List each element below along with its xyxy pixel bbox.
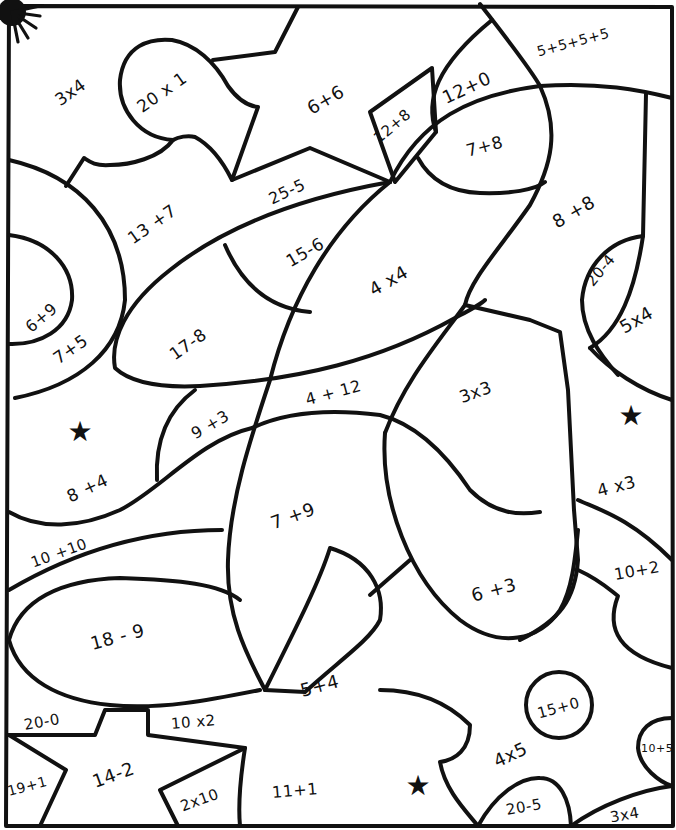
star-icon: ★ [68, 418, 93, 446]
region-label[interactable]: 10+5 [641, 743, 673, 754]
region-label[interactable]: 3x4 [608, 805, 640, 825]
sun-corner-icon [0, 0, 40, 42]
star-icon: ★ [619, 402, 644, 430]
star-icon: ★ [406, 772, 431, 800]
region-label[interactable]: 11+1 [271, 781, 318, 801]
region-label[interactable]: 10 x2 [170, 713, 216, 732]
worksheet: 3x420 x 16+612+05+5+5+512+87+825-513 +71… [0, 0, 676, 830]
